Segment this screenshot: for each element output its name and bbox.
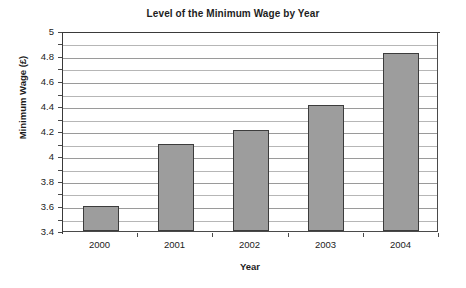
y-axis-tick [58,220,62,221]
y-axis-tick [58,145,62,146]
x-axis-title: Year [62,261,438,272]
x-axis-tick-label: 2003 [288,239,364,250]
y-axis-tick-label: 3.4 [14,227,54,237]
gridline [63,45,437,46]
bar [233,130,269,231]
y-axis-tick-label: 3.6 [14,202,54,212]
gridline [63,121,437,122]
y-axis-tick [58,120,62,121]
y-axis-tick [58,157,62,158]
gridline [63,70,437,71]
y-axis-tick [58,207,62,208]
y-axis-tick [58,69,62,70]
y-axis-tick [58,232,62,233]
y-axis-tick [58,95,62,96]
y-axis-tick [58,57,62,58]
y-axis-tick-label: 3.8 [14,177,54,187]
y-axis-tick-label: 4 [14,152,54,162]
x-axis-tick [438,233,439,237]
bar-chart-figure: Level of the Minimum Wage by Year Minimu… [0,0,466,288]
y-axis-tick-label: 4.8 [14,52,54,62]
bar [158,144,194,231]
y-axis-tick [58,82,62,83]
y-axis-tick [58,107,62,108]
y-axis-tick [58,132,62,133]
bar [308,105,344,231]
x-axis-tick-label: 2004 [363,239,439,250]
chart-title: Level of the Minimum Wage by Year [0,8,466,19]
y-axis-tick [58,32,62,33]
x-axis-tick-label: 2000 [62,239,138,250]
y-axis-tick [58,194,62,195]
gridline [63,83,437,84]
y-axis-tick-label: 4.4 [14,102,54,112]
y-axis-tick [58,182,62,183]
bar [383,53,419,231]
y-axis-tick-label: 4.2 [14,127,54,137]
x-axis-tick [137,233,138,237]
gridline [63,58,437,59]
y-axis-tick [58,44,62,45]
x-axis-tick-label: 2002 [212,239,288,250]
y-axis-tick-label: 4.6 [14,77,54,87]
x-axis-tick-label: 2001 [137,239,213,250]
plot-area [62,32,438,232]
gridline [63,96,437,97]
bar [83,206,119,231]
x-axis-tick [212,233,213,237]
y-axis-tick-label: 5 [14,27,54,37]
x-axis-tick [363,233,364,237]
x-axis-tick [288,233,289,237]
y-axis-tick [58,170,62,171]
gridline [63,108,437,109]
